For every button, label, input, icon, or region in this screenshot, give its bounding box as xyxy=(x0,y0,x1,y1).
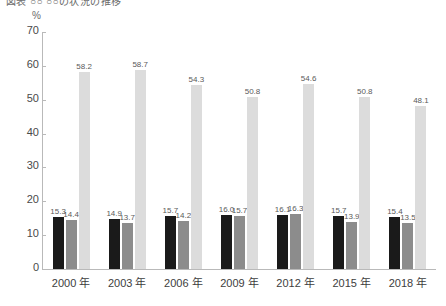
bar-value-label: 14.2 xyxy=(176,211,192,220)
y-axis-tick-label: 20 xyxy=(27,193,39,205)
bar[interactable]: 13.7 xyxy=(122,223,133,269)
y-axis-tick-label: 10 xyxy=(27,227,39,239)
x-axis-group-label: 2009 年 xyxy=(211,274,267,290)
x-axis-group-label: 2003 年 xyxy=(99,274,155,290)
y-axis-tick-label: 70 xyxy=(27,24,39,36)
y-axis-tick-mark xyxy=(42,269,46,270)
bar[interactable]: 13.5 xyxy=(402,223,413,269)
x-axis-line xyxy=(42,269,436,270)
x-axis-group-label: 2006 年 xyxy=(155,274,211,290)
y-axis-unit-label: % xyxy=(32,10,41,21)
bar-value-label: 13.5 xyxy=(400,213,416,222)
bar[interactable]: 15.7 xyxy=(165,216,176,269)
bar-group: 15.413.548.1 xyxy=(389,32,426,269)
y-axis-tick-label: 40 xyxy=(27,126,39,138)
bar[interactable]: 14.4 xyxy=(66,220,77,269)
bar-value-label: 48.1 xyxy=(413,96,429,105)
y-axis-tick-label: 0 xyxy=(33,261,39,273)
bar-value-label: 14.4 xyxy=(63,210,79,219)
bar-value-label: 50.8 xyxy=(245,87,261,96)
bar-value-label: 58.2 xyxy=(76,62,92,71)
x-axis-group-label: 2018 年 xyxy=(380,274,436,290)
bar[interactable]: 13.9 xyxy=(346,222,357,269)
bar-group: 16.015.750.8 xyxy=(221,32,258,269)
x-axis-group-label: 2015 年 xyxy=(324,274,380,290)
y-axis-tick-label: 50 xyxy=(27,92,39,104)
bar[interactable]: 15.4 xyxy=(389,217,400,269)
bar-group: 14.913.758.7 xyxy=(109,32,146,269)
bar[interactable]: 50.8 xyxy=(359,97,370,269)
bar-group: 15.314.458.2 xyxy=(53,32,90,269)
bar[interactable]: 15.7 xyxy=(333,216,344,269)
bar[interactable]: 15.7 xyxy=(234,216,245,269)
bar-value-label: 54.6 xyxy=(301,74,317,83)
bar-value-label: 50.8 xyxy=(357,87,373,96)
bar[interactable]: 50.8 xyxy=(247,97,258,269)
bar-group: 15.714.254.3 xyxy=(165,32,202,269)
bar-group: 16.116.354.6 xyxy=(277,32,314,269)
x-axis-group-label: 2000 年 xyxy=(43,274,99,290)
bar-value-label: 54.3 xyxy=(189,75,205,84)
bar-chart: % 010203040506070 15.314.458.214.913.758… xyxy=(0,0,446,306)
bar-value-label: 58.7 xyxy=(132,60,148,69)
bar[interactable]: 14.9 xyxy=(109,219,120,269)
bar[interactable]: 48.1 xyxy=(415,106,426,269)
bar[interactable]: 15.3 xyxy=(53,217,64,269)
bar[interactable]: 54.6 xyxy=(303,84,314,269)
y-axis-tick-label: 30 xyxy=(27,159,39,171)
bar[interactable]: 58.7 xyxy=(135,70,146,269)
bar[interactable]: 16.3 xyxy=(290,214,301,269)
bar-value-label: 16.3 xyxy=(288,204,304,213)
y-axis-tick-label: 60 xyxy=(27,58,39,70)
plot-area: 15.314.458.214.913.758.715.714.254.316.0… xyxy=(43,32,436,269)
bar-value-label: 13.7 xyxy=(119,213,135,222)
bar[interactable]: 16.1 xyxy=(277,215,288,270)
bar[interactable]: 16.0 xyxy=(221,215,232,269)
bar[interactable]: 54.3 xyxy=(191,85,202,269)
bar[interactable]: 58.2 xyxy=(79,72,90,269)
bar-group: 15.713.950.8 xyxy=(333,32,370,269)
bar-value-label: 15.7 xyxy=(232,206,248,215)
bar-value-label: 13.9 xyxy=(344,212,360,221)
x-axis-group-label: 2012 年 xyxy=(268,274,324,290)
bar[interactable]: 14.2 xyxy=(178,221,189,269)
